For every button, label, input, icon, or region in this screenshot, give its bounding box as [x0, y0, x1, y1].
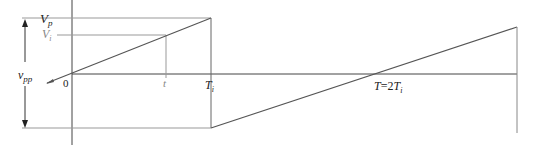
vi-label: Vi	[42, 27, 52, 43]
ramp-arrowhead-icon	[46, 79, 54, 84]
t-label: t	[163, 77, 167, 89]
origin-label: 0	[63, 77, 69, 89]
ramp-2	[211, 27, 517, 128]
period-label: T=2Ti	[374, 79, 402, 95]
vpp-label: vpp	[18, 68, 33, 84]
arrow-down-icon	[22, 120, 28, 128]
vp-label: Vp	[40, 11, 53, 28]
arrow-up-icon	[22, 19, 28, 27]
ti-label: Ti	[205, 78, 214, 94]
sawtooth-diagram: Vp Vi vpp 0 t Ti T=2Ti	[0, 0, 537, 149]
